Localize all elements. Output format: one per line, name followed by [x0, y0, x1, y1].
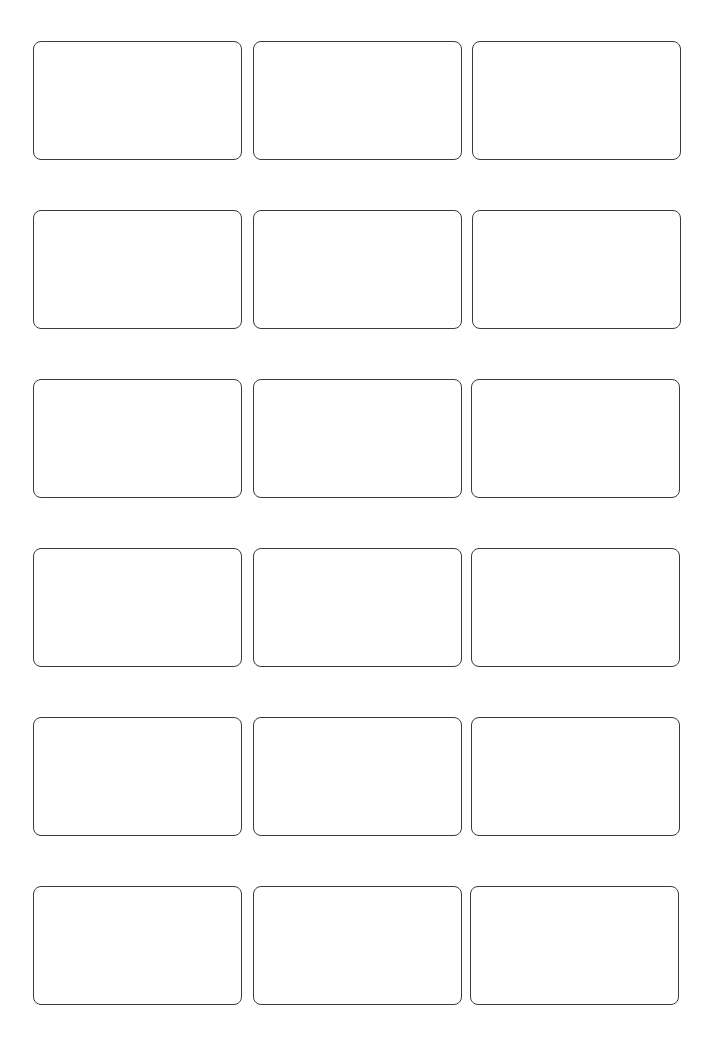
label-card-r6-c3: [470, 886, 679, 1005]
label-card-r5-c1: [33, 717, 242, 836]
label-card-r1-c3: [472, 41, 681, 160]
label-card-r4-c3: [471, 548, 680, 667]
label-sheet: [0, 0, 718, 1050]
label-card-r6-c2: [253, 886, 462, 1005]
label-card-r2-c1: [33, 210, 242, 329]
label-card-r3-c3: [471, 379, 680, 498]
label-card-r3-c1: [33, 379, 242, 498]
label-card-r1-c2: [253, 41, 462, 160]
label-card-r2-c2: [253, 210, 462, 329]
label-card-r2-c3: [472, 210, 681, 329]
label-card-r1-c1: [33, 41, 242, 160]
label-card-r5-c3: [471, 717, 680, 836]
label-card-r3-c2: [253, 379, 462, 498]
label-card-r4-c2: [253, 548, 462, 667]
label-card-r6-c1: [33, 886, 242, 1005]
label-card-r4-c1: [33, 548, 242, 667]
label-card-r5-c2: [253, 717, 462, 836]
